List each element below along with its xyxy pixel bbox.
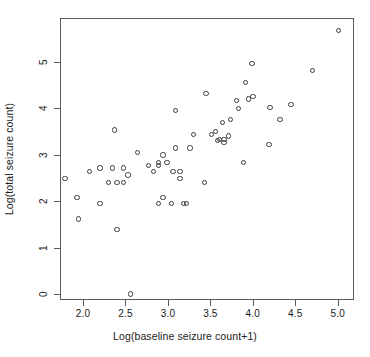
x-axis-label: Log(baseline seizure count+1) [0,330,370,342]
y-axis-label: Log(total seizure count) [3,103,15,215]
y-axis-tick-label: 4 [38,105,49,111]
x-axis-tick [83,300,84,306]
y-axis-tick-label: 5 [38,59,49,65]
y-axis-tick-label: 0 [38,291,49,297]
x-axis-tick-label: 3.5 [203,308,218,319]
x-axis-tick [210,300,211,306]
x-axis-tick-label: 3.0 [161,308,176,319]
x-axis-tick-label: 2.0 [76,308,91,319]
y-axis-tick [54,155,60,156]
y-axis-tick-label: 3 [38,152,49,158]
x-axis-tick [338,300,339,306]
x-axis-tick [253,300,254,306]
x-axis-tick-label: 4.0 [246,308,261,319]
x-axis-tick-label: 5.0 [331,308,346,319]
y-axis-tick [54,62,60,63]
x-axis-tick-label: 2.5 [118,308,133,319]
y-axis-tick [54,294,60,295]
x-axis-tick [168,300,169,306]
x-axis-tick-label: 4.5 [288,308,303,319]
y-axis-tick-label: 2 [38,198,49,204]
plot-frame [60,18,354,300]
scatter-plot: 2.02.53.03.54.04.55.0012345 Log(baseline… [0,0,370,357]
y-axis-tick [54,108,60,109]
x-axis-tick [295,300,296,306]
y-axis-tick [54,248,60,249]
y-axis-tick [54,201,60,202]
x-axis-tick [125,300,126,306]
y-axis-tick-label: 1 [38,245,49,251]
